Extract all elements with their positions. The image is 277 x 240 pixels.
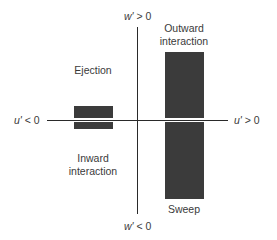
- u-positive-relation: > 0: [245, 114, 260, 126]
- w-positive-relation: > 0: [137, 10, 152, 22]
- u-negative-relation: < 0: [25, 114, 40, 126]
- u-negative-label: u' < 0: [14, 114, 40, 126]
- outward-line1: Outward: [154, 22, 214, 35]
- u-variable: u': [234, 114, 242, 126]
- w-negative-relation: < 0: [137, 220, 152, 232]
- quadrant-label-outward-interaction: Outward interaction: [154, 22, 214, 48]
- quadrant-label-inward-interaction: Inward interaction: [63, 152, 123, 178]
- w-positive-label: w' > 0: [124, 10, 151, 22]
- outward-line2: interaction: [154, 35, 214, 48]
- u-positive-label: u' > 0: [234, 114, 260, 126]
- inward-line2: interaction: [63, 165, 123, 178]
- u-variable: u': [14, 114, 22, 126]
- inward-line1: Inward: [63, 152, 123, 165]
- quadrant-label-sweep: Sweep: [154, 203, 214, 216]
- quadrant-label-ejection: Ejection: [63, 64, 123, 77]
- w-variable: w': [124, 10, 134, 22]
- outward-sweep-bar: [165, 52, 204, 199]
- horizontal-axis-u: [47, 120, 228, 122]
- w-variable: w': [124, 220, 134, 232]
- w-negative-label: w' < 0: [124, 220, 151, 232]
